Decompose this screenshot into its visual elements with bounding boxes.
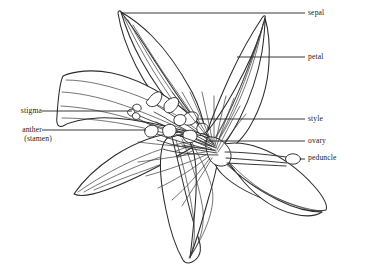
label-ovary: ovary bbox=[308, 136, 326, 145]
label-stigma: stigma bbox=[8, 106, 42, 115]
flower-anatomy-diagram: sepal petal style ovary peduncle stigma … bbox=[0, 0, 371, 275]
label-peduncle: peduncle bbox=[308, 153, 337, 162]
label-sepal: sepal bbox=[308, 8, 324, 17]
upper-right-tepal bbox=[206, 16, 269, 158]
label-stamen: (stamen) bbox=[10, 134, 52, 143]
label-style: style bbox=[308, 114, 323, 123]
label-petal: petal bbox=[308, 52, 324, 61]
